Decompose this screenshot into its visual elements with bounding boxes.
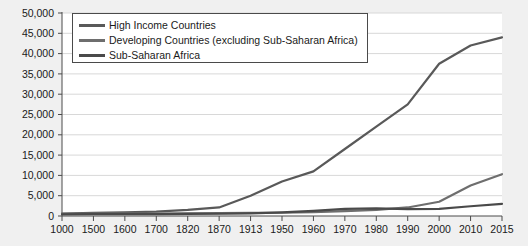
x-tick-label: 2000 — [427, 223, 451, 235]
y-tick-label: 15,000 — [22, 149, 54, 161]
y-tick-label: 30,000 — [22, 88, 54, 100]
y-axis-group — [58, 12, 62, 216]
x-axis-group — [62, 216, 502, 221]
x-tick-labels-group: 1000150016001700182018701913195019601970… — [50, 223, 514, 235]
x-tick-label: 2015 — [490, 223, 514, 235]
x-tick-label: 1870 — [207, 223, 231, 235]
legend-swatch-sub-saharan-africa — [79, 54, 105, 57]
legend-label-high-income: High Income Countries — [109, 19, 216, 31]
y-tick-label: 0 — [48, 210, 54, 222]
series-line — [62, 37, 502, 213]
series-lines-group — [62, 37, 502, 214]
x-tick-label: 1700 — [145, 223, 169, 235]
legend-swatch-developing — [79, 39, 105, 42]
x-tick-label: 1913 — [239, 223, 263, 235]
y-tick-label: 40,000 — [22, 47, 54, 59]
y-tick-label: 45,000 — [22, 27, 54, 39]
x-tick-label: 1000 — [50, 223, 74, 235]
y-tick-label: 35,000 — [22, 68, 54, 80]
x-tick-label: 1500 — [82, 223, 106, 235]
y-tick-label: 5,000 — [28, 189, 54, 201]
x-tick-label: 1970 — [333, 223, 357, 235]
x-tick-label: 1600 — [113, 223, 137, 235]
chart-container: 05,00010,00015,00020,00025,00030,00035,0… — [0, 0, 528, 246]
legend-swatch-high-income — [79, 24, 105, 27]
x-tick-label: 1820 — [176, 223, 200, 235]
legend-item-high-income: High Income Countries — [79, 18, 361, 32]
x-tick-label: 1960 — [302, 223, 326, 235]
legend-label-developing: Developing Countries (excluding Sub-Saha… — [109, 34, 358, 46]
x-tick-label: 1990 — [396, 223, 420, 235]
x-tick-label: 2010 — [459, 223, 483, 235]
x-tick-label: 1950 — [270, 223, 294, 235]
y-tick-label: 20,000 — [22, 128, 54, 140]
chart-legend: High Income Countries Developing Countri… — [72, 13, 368, 63]
x-tick-label: 1980 — [365, 223, 389, 235]
legend-label-sub-saharan-africa: Sub-Saharan Africa — [109, 49, 200, 61]
y-tick-labels-group: 05,00010,00015,00020,00025,00030,00035,0… — [22, 7, 54, 222]
legend-item-sub-saharan-africa: Sub-Saharan Africa — [79, 48, 361, 62]
y-tick-label: 10,000 — [22, 169, 54, 181]
y-tick-label: 25,000 — [22, 108, 54, 120]
y-tick-label: 50,000 — [22, 7, 54, 19]
legend-item-developing: Developing Countries (excluding Sub-Saha… — [79, 33, 361, 47]
